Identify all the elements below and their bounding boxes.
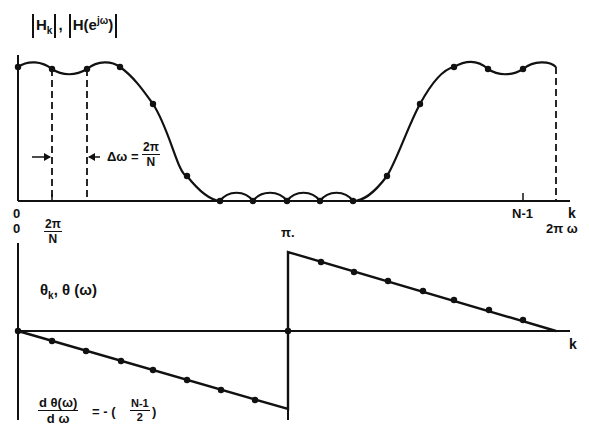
magnitude-samples bbox=[15, 64, 526, 204]
slope-close-paren: ) bbox=[152, 405, 156, 418]
magnitude-curve bbox=[18, 62, 556, 201]
bottom-ylabel: θk, θ (ω) bbox=[40, 282, 97, 301]
slope-equals: = - ( bbox=[92, 405, 115, 418]
diagram-canvas bbox=[0, 0, 589, 431]
x-k-origin-label: 0 bbox=[13, 207, 20, 220]
slope-n-minus-1-over-2: N-1 2 bbox=[130, 398, 150, 423]
bottom-x-k-axis-label: k bbox=[569, 337, 577, 351]
x-2pi-omega-label: 2π ω bbox=[546, 222, 578, 235]
delta-omega-label: Δω = bbox=[107, 150, 139, 163]
slope-derivative-fraction: d θ(ω) d ω bbox=[38, 396, 78, 425]
delta-arrowhead-left bbox=[44, 153, 51, 161]
delta-arrowhead-right bbox=[88, 153, 95, 161]
delta-omega-fraction: 2π N bbox=[142, 141, 160, 168]
x-omega-origin-label: 0 bbox=[13, 222, 20, 235]
top-ylabel: Hk, H(ejω) bbox=[30, 14, 119, 38]
x-pi-label: π. bbox=[281, 226, 295, 239]
x-n-minus-1-label: N-1 bbox=[512, 207, 533, 220]
x-k-axis-label: k bbox=[568, 206, 576, 220]
x-2pi-over-n-label: 2π N bbox=[44, 218, 62, 245]
